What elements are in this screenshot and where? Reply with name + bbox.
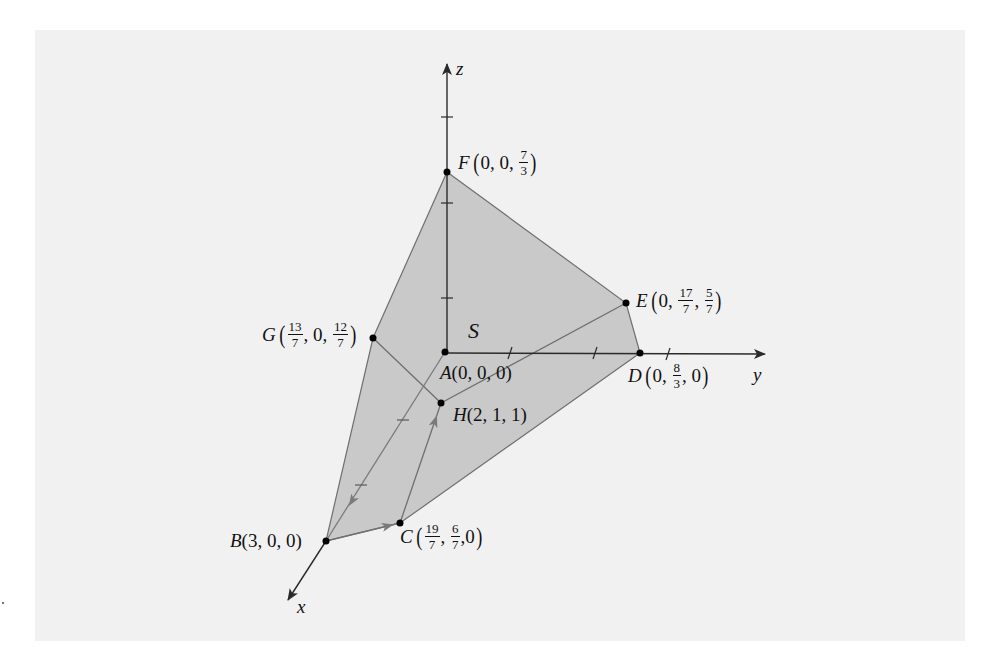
- feasible-region: [326, 172, 640, 541]
- label-point-f: F ( 0, 0, 73 ): [458, 148, 538, 177]
- point-b: [323, 538, 330, 545]
- point-f: [444, 169, 451, 176]
- fraction: 127: [333, 320, 348, 349]
- fraction: 67: [451, 522, 460, 551]
- label-point-e: E ( 0, 177, 57 ): [636, 286, 723, 315]
- region-label: S: [468, 318, 479, 344]
- fraction: 137: [288, 320, 303, 349]
- label-point-d: D ( 0, 83, 0 ): [628, 361, 710, 390]
- label-point-h: H(2, 1, 1): [453, 405, 527, 424]
- label-point-g: G ( 137, 0, 127 ): [262, 320, 358, 349]
- fraction: 73: [519, 148, 528, 177]
- x-axis-label: x: [297, 596, 305, 618]
- label-point-b: B(3, 0, 0): [230, 531, 302, 550]
- feasible-region-diagram: [0, 0, 993, 668]
- point-g: [370, 335, 377, 342]
- label-point-a: A(0, 0, 0): [440, 363, 512, 382]
- point-d: [637, 350, 644, 357]
- fraction: 177: [678, 286, 693, 315]
- point-h: [438, 400, 445, 407]
- fraction: 57: [705, 286, 714, 315]
- y-axis-label: y: [753, 364, 761, 386]
- fraction: 197: [425, 522, 440, 551]
- label-point-c: C ( 197, 67, 0 ): [400, 522, 483, 551]
- fraction: 83: [673, 361, 682, 390]
- point-a: [442, 349, 449, 356]
- z-axis-label: z: [456, 58, 463, 80]
- point-e: [623, 300, 630, 307]
